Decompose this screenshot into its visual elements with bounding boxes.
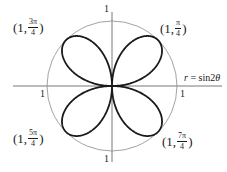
point-prefix: (1, bbox=[160, 22, 174, 35]
point-label-3pi-4: (1, 3π 4 ) bbox=[13, 18, 43, 37]
equation-label: r = sin2θ bbox=[184, 73, 220, 83]
point-prefix: (1, bbox=[162, 135, 176, 148]
fraction: 3π 4 bbox=[28, 18, 38, 37]
point-label-5pi-4: (1, 5π 4 ) bbox=[13, 129, 43, 148]
fraction: π 4 bbox=[175, 19, 181, 38]
tick-label-bottom: 1 bbox=[104, 154, 109, 164]
fraction-denominator: 4 bbox=[31, 139, 35, 148]
tick-label-left: 1 bbox=[40, 89, 45, 99]
point-suffix: ) bbox=[182, 22, 186, 35]
point-label-pi-4: (1, π 4 ) bbox=[160, 19, 186, 38]
fraction: 5π 4 bbox=[28, 129, 38, 148]
point-prefix: (1, bbox=[13, 21, 27, 34]
point-suffix: ) bbox=[39, 132, 43, 145]
fraction-numerator: π bbox=[175, 19, 181, 29]
tick-label-right: 1 bbox=[180, 89, 185, 99]
point-prefix: (1, bbox=[13, 132, 27, 145]
point-label-7pi-4: (1, 7π 4 ) bbox=[162, 132, 192, 151]
fraction-denominator: 4 bbox=[31, 28, 35, 37]
point-suffix: ) bbox=[39, 21, 43, 34]
point-suffix: ) bbox=[188, 135, 192, 148]
fraction-numerator: 3π bbox=[28, 18, 38, 28]
tick-label-top: 1 bbox=[104, 4, 109, 14]
fraction-numerator: 5π bbox=[28, 129, 38, 139]
fraction: 7π 4 bbox=[177, 132, 187, 151]
equation-theta: θ bbox=[215, 72, 220, 83]
equation-rest: = sin2 bbox=[188, 72, 215, 83]
fraction-denominator: 4 bbox=[180, 142, 184, 151]
fraction-denominator: 4 bbox=[176, 29, 180, 38]
fraction-numerator: 7π bbox=[177, 132, 187, 142]
